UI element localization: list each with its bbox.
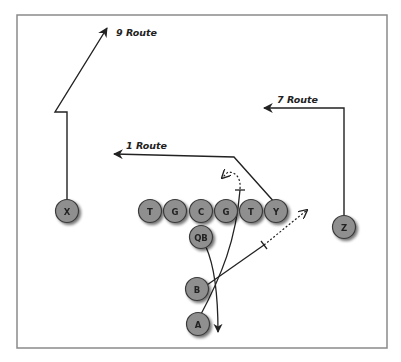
route-1-label: 1 Route: [126, 140, 168, 151]
svg-text:B: B: [194, 285, 200, 295]
route-7-label: 7 Route: [277, 94, 319, 105]
svg-text:T: T: [147, 207, 153, 217]
svg-text:Z: Z: [341, 223, 347, 233]
player-right-guard: G: [215, 200, 238, 223]
player-left-tackle: T: [139, 200, 162, 223]
play-diagram: 9 Route 7 Route 1 Route X T G C G T Y: [0, 0, 401, 362]
svg-text:QB: QB: [194, 233, 208, 243]
svg-text:Y: Y: [272, 207, 280, 217]
player-x: X: [56, 200, 79, 223]
player-left-guard: G: [164, 200, 187, 223]
svg-text:C: C: [198, 207, 204, 217]
route-9-label: 9 Route: [116, 27, 158, 38]
svg-text:G: G: [223, 207, 230, 217]
svg-text:A: A: [195, 320, 202, 330]
svg-text:X: X: [64, 207, 71, 217]
player-a: A: [187, 313, 210, 336]
player-qb: QB: [190, 226, 213, 249]
player-b: B: [186, 278, 209, 301]
player-z: Z: [333, 216, 356, 239]
svg-text:T: T: [248, 207, 254, 217]
player-y: Y: [265, 200, 288, 223]
player-center: C: [190, 200, 213, 223]
player-right-tackle: T: [240, 200, 263, 223]
svg-text:G: G: [172, 207, 179, 217]
